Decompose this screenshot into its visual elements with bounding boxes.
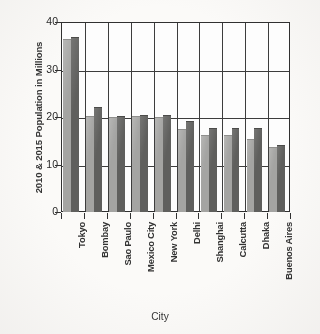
bar-bombay-2010 [86,116,94,212]
x-tick-mark [153,213,154,219]
bar-dhaka-2010 [247,139,255,212]
x-tick-label: Tokyo [76,222,87,248]
bar-shanghai-2010 [201,135,209,212]
x-tick-label: Delhi [191,222,202,244]
bar-mexico-city-2015 [140,115,148,212]
y-tick-mark [55,117,61,118]
bar-new-york-2015 [163,115,171,212]
y-tick-mark [55,70,61,71]
x-tick-label: Sao Paulo [122,222,133,266]
bar-group [198,22,221,212]
bars-layer [61,22,290,212]
bar-tokyo-2015 [71,37,79,212]
x-tick-mark [244,213,245,219]
x-tick-label: Dhaka [260,222,271,249]
x-tick-mark [84,213,85,219]
bar-group [221,22,244,212]
bar-calcutta-2015 [232,128,240,212]
bar-calcutta-2010 [224,135,232,212]
bar-group [244,22,267,212]
bar-delhi-2015 [186,121,194,212]
x-tick-mark [176,213,177,219]
bar-buenos-aires-2015 [277,145,285,213]
x-tick-label: New York [168,222,179,262]
bar-shanghai-2015 [209,128,217,212]
bar-sao-paulo-2015 [117,116,125,212]
bar-group [130,22,153,212]
y-tick-label: 10 [18,158,58,170]
x-tick-mark [221,213,222,219]
y-tick-label: 20 [18,110,58,122]
x-tick-mark [290,213,291,219]
bar-group [153,22,176,212]
y-tick-label: 30 [18,63,58,75]
bar-bombay-2015 [94,107,102,213]
x-tick-label: Buenos Aires [283,222,294,280]
bar-mexico-city-2010 [132,116,140,212]
bar-group [107,22,130,212]
y-tick-label: 0 [18,205,58,217]
x-tick-label: Mexico City [145,222,156,272]
bar-new-york-2010 [155,117,163,212]
bar-dhaka-2015 [254,128,262,212]
x-tick-mark [107,213,108,219]
x-tick-mark [130,213,131,219]
y-tick-mark [55,22,61,23]
x-tick-label: Shanghai [214,222,225,263]
bar-tokyo-2010 [63,39,71,212]
bar-group [176,22,199,212]
bar-delhi-2010 [178,129,186,212]
x-axis-title: City [0,311,320,322]
bar-buenos-aires-2010 [269,147,277,212]
bar-group [267,22,290,212]
y-tick-mark [55,165,61,166]
bar-sao-paulo-2010 [109,117,117,212]
bar-group [61,22,84,212]
y-tick-label: 40 [18,15,58,27]
x-tick-label: Bombay [99,222,110,258]
x-tick-mark [267,213,268,219]
x-tick-mark [198,213,199,219]
bar-chart: 2010 & 2015 Population in Millions 40302… [0,0,320,334]
bar-group [84,22,107,212]
x-tick-label: Calcutta [237,222,248,257]
x-tick-mark [61,213,62,219]
